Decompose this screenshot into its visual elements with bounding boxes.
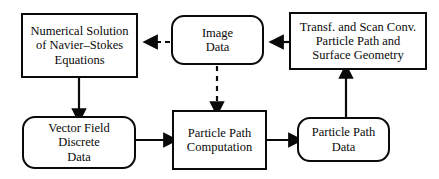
node-label-line: Vector Field (48, 121, 109, 135)
node-particle-path-data: Particle Path Data (297, 117, 390, 162)
node-label-line: Computation (187, 140, 252, 154)
node-label-line: Particle Path (188, 126, 252, 140)
node-label-line: Numerical Solution (30, 24, 128, 38)
node-label-line: Data (206, 40, 230, 54)
node-label-line: Discrete (58, 135, 100, 149)
node-label-line: Data (332, 140, 356, 154)
node-image-data: Image Data (171, 15, 264, 65)
node-label-line: Data (67, 150, 91, 164)
node-label-line: Equations (55, 53, 105, 67)
node-label-line: of Navier–Stokes (36, 38, 123, 52)
node-label-line: Image (202, 26, 233, 40)
node-vector-field-discrete-data: Vector Field Discrete Data (22, 116, 136, 169)
node-particle-path-computation: Particle Path Computation (172, 110, 267, 170)
node-transf-and-scan-conversion: Transf. and Scan Conv. Particle Path and… (289, 12, 427, 70)
node-numerical-solution-navier-stokes: Numerical Solution of Navier–Stokes Equa… (21, 13, 138, 78)
flow-diagram: Numerical Solution of Navier–Stokes Equa… (0, 0, 439, 179)
node-label-line: Particle Path and (316, 34, 401, 48)
node-label-line: Surface Geometry (312, 48, 403, 62)
node-label-line: Transf. and Scan Conv. (300, 20, 416, 34)
node-label-line: Particle Path (312, 125, 376, 139)
